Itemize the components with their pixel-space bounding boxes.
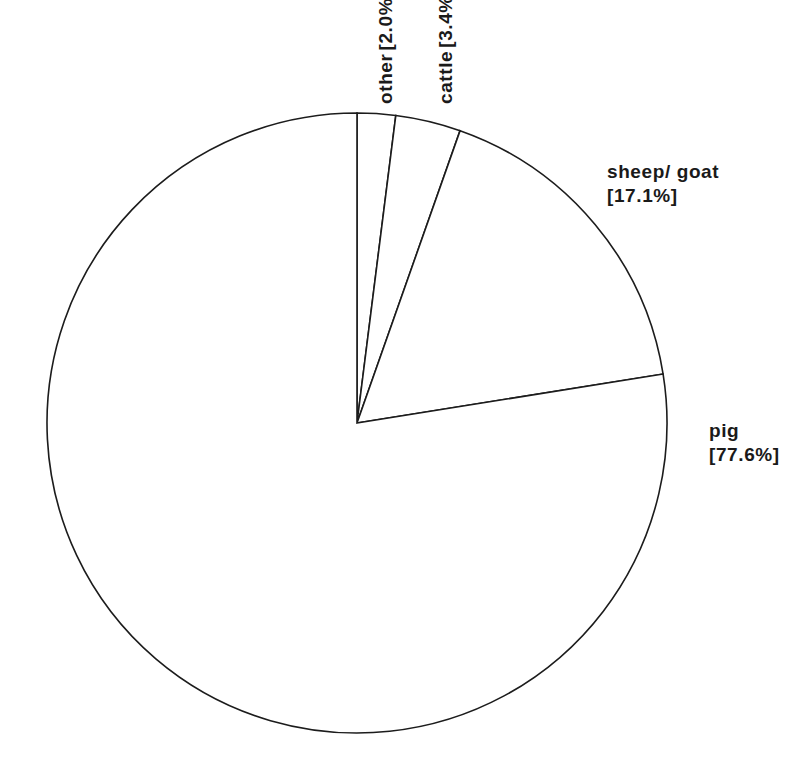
pie-label-cattle: cattle[3.4%] (434, 0, 458, 104)
pie-label-sheep-goat-value: [17.1%] (607, 184, 719, 208)
pie-chart-canvas (0, 0, 806, 770)
pie-chart: other[2.0%] cattle[3.4%] sheep/ goat [17… (0, 0, 806, 770)
pie-label-sheep-goat: sheep/ goat [17.1%] (607, 160, 719, 209)
pie-label-pig: pig [77.6%] (709, 419, 780, 468)
pie-label-cattle-value: [3.4%] (434, 0, 458, 48)
pie-label-sheep-goat-name: sheep/ goat (607, 160, 719, 184)
pie-label-other-name: other (374, 54, 398, 105)
pie-label-pig-value: [77.6%] (709, 443, 780, 467)
pie-label-other: other[2.0%] (374, 0, 398, 104)
pie-label-other-value: [2.0%] (374, 0, 398, 51)
pie-slices-group (47, 113, 667, 733)
pie-label-cattle-name: cattle (434, 51, 458, 104)
pie-label-pig-name: pig (709, 419, 780, 443)
